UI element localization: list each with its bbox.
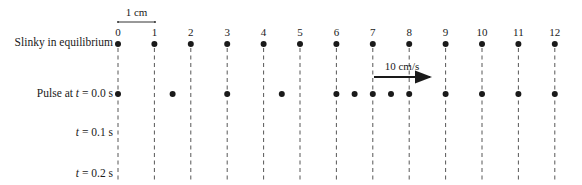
- slinky-diagram: 1 cm 0123456789101112 Slinky in equilibr…: [0, 0, 582, 185]
- row-label-t02: t = 0.2 s: [76, 167, 114, 179]
- position-number: 6: [334, 26, 340, 38]
- slinky-coil-dot: [443, 91, 449, 97]
- slinky-coil-dot: [115, 41, 121, 47]
- slinky-coil-dot: [479, 91, 485, 97]
- position-number: 7: [370, 26, 376, 38]
- slinky-coil-dot: [333, 41, 339, 47]
- position-number: 10: [477, 26, 489, 38]
- row-label-pulse-t0: Pulse at t = 0.0 s: [37, 87, 114, 99]
- row-label-t01: t = 0.1 s: [76, 126, 114, 138]
- position-number: 3: [224, 26, 230, 38]
- slinky-coil-dot: [224, 41, 230, 47]
- velocity-label: 10 cm/s: [385, 60, 420, 72]
- slinky-coil-dot: [552, 91, 558, 97]
- slinky-coil-dot: [479, 41, 485, 47]
- slinky-coil-dot: [188, 41, 194, 47]
- slinky-coil-dot: [406, 91, 412, 97]
- slinky-coil-dot: [151, 41, 157, 47]
- slinky-coil-dot: [352, 91, 358, 97]
- slinky-coil-dot: [515, 91, 521, 97]
- slinky-coil-dot: [515, 41, 521, 47]
- slinky-coil-dot: [224, 91, 230, 97]
- position-number: 9: [443, 26, 449, 38]
- slinky-coil-dot: [333, 91, 339, 97]
- position-number: 0: [115, 26, 121, 38]
- slinky-coil-dot: [261, 41, 267, 47]
- slinky-coil-dot: [115, 91, 121, 97]
- row-label-equilibrium: Slinky in equilibrium: [15, 36, 113, 49]
- position-number: 2: [188, 26, 194, 38]
- position-number: 4: [261, 26, 267, 38]
- pulse-t0-dots: [115, 91, 558, 97]
- position-number: 8: [406, 26, 412, 38]
- position-number: 5: [297, 26, 303, 38]
- slinky-coil-dot: [388, 91, 394, 97]
- slinky-coil-dot: [443, 41, 449, 47]
- scale-bar-label: 1 cm: [126, 6, 148, 18]
- position-number: 12: [549, 26, 560, 38]
- slinky-coil-dot: [297, 41, 303, 47]
- slinky-coil-dot: [170, 91, 176, 97]
- slinky-coil-dot: [370, 91, 376, 97]
- equilibrium-dots: [115, 41, 558, 47]
- position-guides: [118, 48, 555, 180]
- slinky-coil-dot: [370, 41, 376, 47]
- velocity-arrow: 10 cm/s: [374, 60, 430, 77]
- position-number: 11: [513, 26, 524, 38]
- slinky-coil-dot: [406, 41, 412, 47]
- slinky-coil-dot: [279, 91, 285, 97]
- position-numbers: 0123456789101112: [115, 26, 560, 38]
- slinky-coil-dot: [552, 41, 558, 47]
- scale-bar: 1 cm: [118, 6, 155, 22]
- position-number: 1: [152, 26, 158, 38]
